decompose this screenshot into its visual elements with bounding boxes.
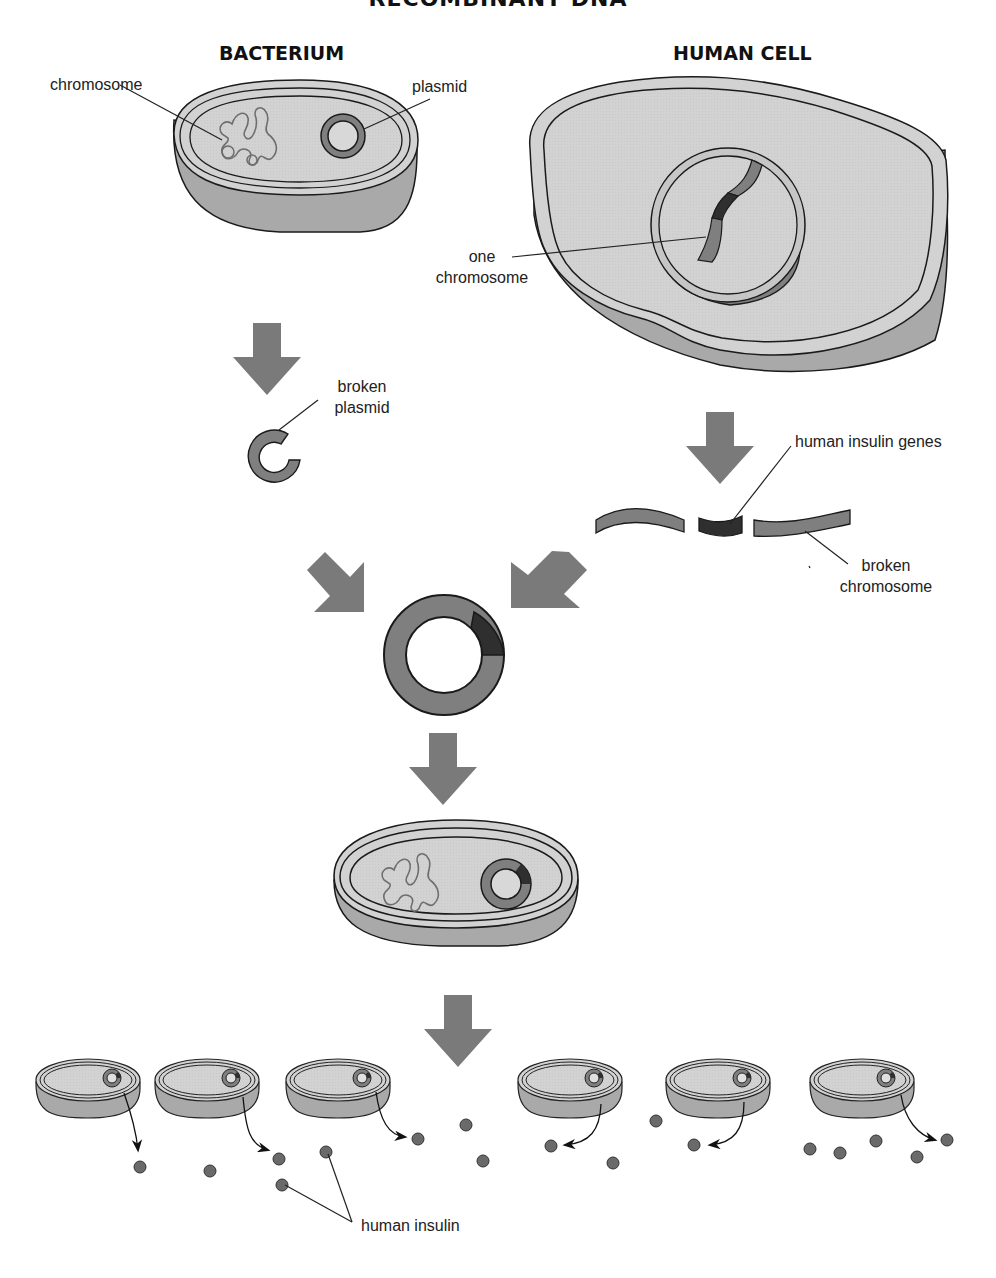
label-plasmid: plasmid	[412, 76, 467, 97]
label-broken-chromosome-line2: chromosome	[828, 576, 944, 597]
label-one-chromosome-line1: one	[422, 246, 542, 267]
bacterium-original	[120, 80, 430, 232]
label-one-chromosome-line2: chromosome	[422, 267, 542, 288]
arrow-down-to-multiplying-bacteria	[424, 995, 492, 1067]
recombinant-bacterium	[334, 820, 578, 946]
label-broken-plasmid: broken plasmid	[322, 376, 402, 418]
offspring-bacterium-4	[518, 1059, 622, 1118]
offspring-bacterium-2	[155, 1059, 259, 1118]
arrow-down-to-recombinant-bacterium	[409, 733, 477, 805]
offspring-bacterium-6	[810, 1059, 914, 1118]
arrow-diagonal-left	[307, 552, 364, 612]
arrow-down-bacterium	[233, 323, 301, 395]
offspring-bacterium-1	[36, 1059, 140, 1118]
arrow-diagonal-right	[511, 551, 587, 608]
insulin-gene-fragment	[699, 516, 742, 536]
label-human-insulin-genes: human insulin genes	[795, 431, 942, 452]
diagram-canvas	[0, 0, 996, 1278]
label-one-chromosome: one chromosome	[422, 246, 542, 288]
offspring-bacterium-3	[286, 1059, 390, 1118]
label-broken-plasmid-line1: broken	[322, 376, 402, 397]
broken-plasmid	[248, 400, 318, 482]
offspring-bacterium-5	[666, 1059, 770, 1118]
label-human-insulin: human insulin	[361, 1215, 460, 1236]
label-broken-chromosome: broken chromosome	[828, 555, 944, 597]
arrow-down-human-cell	[686, 412, 754, 484]
label-broken-plasmid-line2: plasmid	[322, 397, 402, 418]
label-chromosome: chromosome	[50, 74, 142, 95]
label-broken-chromosome-line1: broken	[828, 555, 944, 576]
insulin-molecules	[134, 1115, 953, 1191]
recombinant-plasmid	[384, 595, 504, 715]
human-cell	[512, 77, 948, 372]
